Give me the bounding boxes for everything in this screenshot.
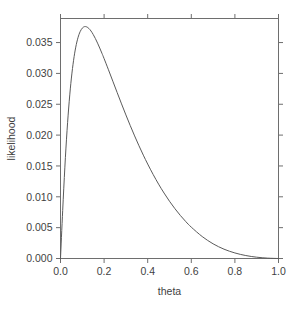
chart-canvas: 0.0000.0050.0100.0150.0200.0250.0300.035… [0, 0, 298, 309]
y-axis-title: likelihood [5, 116, 17, 160]
x-axis-title: theta [158, 285, 182, 297]
svg-text:0.6: 0.6 [184, 265, 199, 277]
svg-text:0.4: 0.4 [140, 265, 155, 277]
svg-text:0.030: 0.030 [26, 67, 52, 79]
svg-text:0.025: 0.025 [26, 98, 52, 110]
svg-text:0.010: 0.010 [26, 191, 52, 203]
svg-text:0.035: 0.035 [26, 36, 52, 48]
svg-text:0.2: 0.2 [97, 265, 112, 277]
svg-text:0.8: 0.8 [228, 265, 243, 277]
likelihood-chart: 0.0000.0050.0100.0150.0200.0250.0300.035… [0, 0, 298, 309]
svg-text:0.015: 0.015 [26, 160, 52, 172]
svg-text:0.0: 0.0 [53, 265, 68, 277]
svg-text:0.005: 0.005 [26, 221, 52, 233]
svg-text:1.0: 1.0 [271, 265, 286, 277]
svg-text:0.000: 0.000 [26, 252, 52, 264]
svg-text:0.020: 0.020 [26, 129, 52, 141]
